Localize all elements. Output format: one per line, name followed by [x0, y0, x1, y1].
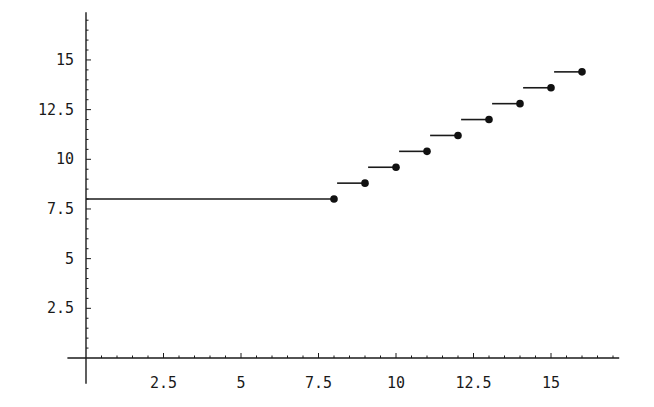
- x-tick-label: 7.5: [305, 374, 332, 392]
- x-tick-label: 5: [236, 374, 245, 392]
- data-point: [330, 195, 338, 203]
- data-point: [516, 100, 524, 108]
- x-tick-label: 12.5: [455, 374, 491, 392]
- x-tick-label: 10: [387, 374, 405, 392]
- y-tick-label: 15: [56, 51, 74, 69]
- data-point: [454, 132, 462, 140]
- x-tick-label: 15: [542, 374, 560, 392]
- data-point: [423, 148, 431, 156]
- data-point: [578, 68, 586, 76]
- step-chart: 2.557.51012.5152.557.51012.515: [0, 0, 654, 407]
- data-point: [547, 84, 555, 92]
- data-point: [485, 116, 493, 124]
- y-tick-label: 7.5: [47, 200, 74, 218]
- data-point: [361, 179, 369, 187]
- y-tick-label: 2.5: [47, 299, 74, 317]
- data-point: [392, 163, 400, 171]
- y-tick-label: 12.5: [38, 101, 74, 119]
- x-tick-label: 2.5: [150, 374, 177, 392]
- y-tick-label: 5: [65, 250, 74, 268]
- y-tick-label: 10: [56, 150, 74, 168]
